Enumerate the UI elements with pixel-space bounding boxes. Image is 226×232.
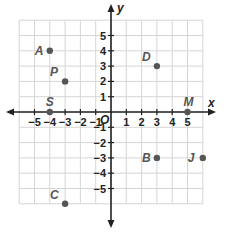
point-marker — [154, 155, 160, 161]
point-marker — [62, 78, 68, 84]
y-tick-label: 1 — [100, 91, 106, 103]
point-label: M — [184, 95, 195, 109]
y-axis-arrow-down-icon — [108, 220, 115, 228]
x-axis-arrow-left-icon — [6, 109, 14, 116]
point-marker — [184, 109, 190, 115]
point-marker — [62, 201, 68, 207]
origin-label: O — [100, 113, 110, 127]
point-label: S — [46, 95, 54, 109]
point-label: B — [142, 151, 151, 165]
point-label: C — [50, 188, 59, 202]
y-tick-label: 4 — [100, 45, 107, 57]
y-tick-label: −4 — [93, 167, 106, 179]
y-tick-label: 2 — [100, 75, 106, 87]
x-tick-label: 4 — [169, 116, 176, 128]
point-marker — [47, 109, 53, 115]
y-tick-label: −5 — [93, 183, 106, 195]
coordinate-plane: −5−4−3−2−11234554321−1−2−3−4−5 x y O APS… — [0, 0, 226, 232]
point-marker — [47, 48, 53, 54]
point-label: D — [142, 50, 151, 64]
x-tick-label: 1 — [123, 116, 129, 128]
x-tick-label: −4 — [44, 116, 57, 128]
point-label: J — [188, 151, 195, 165]
y-tick-label: 5 — [100, 30, 106, 42]
y-tick-label: −2 — [93, 137, 106, 149]
y-axis-arrow-up-icon — [108, 4, 115, 12]
x-tick-label: 2 — [139, 116, 145, 128]
y-tick-label: 3 — [100, 60, 106, 72]
point-label: P — [50, 65, 59, 79]
point-label: A — [34, 44, 44, 58]
point-marker — [200, 155, 206, 161]
point-s: S — [46, 95, 54, 115]
y-axis-label: y — [116, 1, 125, 15]
x-tick-label: −2 — [74, 116, 87, 128]
y-tick-label: −3 — [93, 152, 106, 164]
x-tick-label: −3 — [59, 116, 72, 128]
x-axis-label: x — [207, 96, 216, 110]
point-marker — [154, 63, 160, 69]
x-tick-label: 5 — [184, 116, 190, 128]
x-tick-label: −5 — [28, 116, 41, 128]
x-tick-label: 3 — [154, 116, 160, 128]
